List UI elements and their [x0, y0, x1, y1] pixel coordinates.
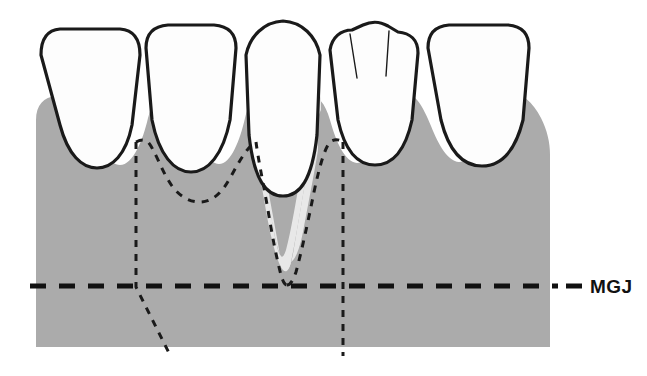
tooth-3: [246, 21, 320, 196]
dental-diagram-svg: MGJ: [0, 0, 647, 376]
dental-illustration-figure: MGJ: [0, 0, 647, 376]
mgj-label: MGJ: [590, 276, 632, 297]
tooth-5: [428, 25, 529, 166]
